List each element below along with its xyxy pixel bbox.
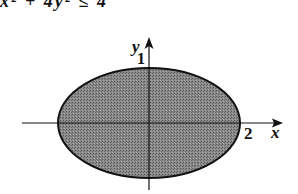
x-tick-label: 2 [244, 124, 253, 143]
ellipse-diagram: y 1 2 x [0, 0, 298, 194]
y-tick-label: 1 [137, 50, 145, 67]
x-axis-label: x [270, 123, 280, 142]
